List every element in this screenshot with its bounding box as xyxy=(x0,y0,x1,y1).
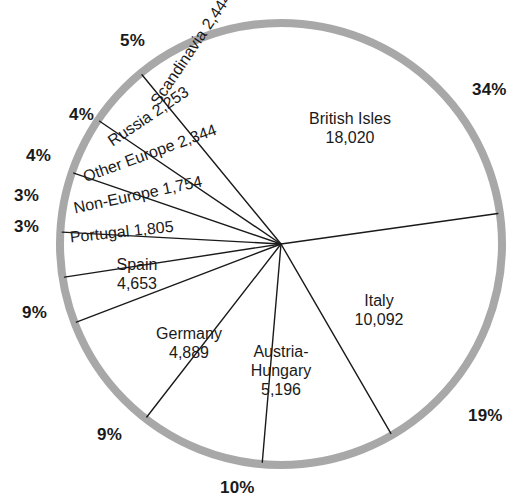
percent-label-british-isles: 34% xyxy=(472,80,507,100)
slice-label-line: 10,092 xyxy=(355,311,404,330)
slice-label-italy: Italy10,092 xyxy=(355,292,404,330)
slice-label-spain: Spain4,653 xyxy=(117,256,158,294)
slice-label-line: 4,653 xyxy=(117,275,158,294)
percent-label-russia: 4% xyxy=(69,105,94,125)
slice-divider-1 xyxy=(281,244,391,433)
slice-label-line: 5,196 xyxy=(251,380,311,399)
percent-label-spain: 9% xyxy=(22,303,47,323)
pie-svg xyxy=(0,0,522,500)
slice-label-british-isles: British Isles18,020 xyxy=(309,110,391,148)
percent-label-scandinavia: 5% xyxy=(120,31,145,51)
slice-divider-5 xyxy=(65,244,281,277)
slice-label-germany: Germany4,889 xyxy=(156,325,222,363)
slice-label-line: British Isles xyxy=(309,110,391,129)
slice-label-line: Hungary xyxy=(251,362,311,381)
slice-label-line: Austria- xyxy=(251,343,311,362)
percent-label-non-europe: 3% xyxy=(14,186,39,206)
slice-label-line: 4,889 xyxy=(156,344,222,363)
slice-label-austria-hungary: Austria-Hungary5,196 xyxy=(251,343,311,400)
percent-label-other-europe: 4% xyxy=(26,146,51,166)
percent-label-italy: 19% xyxy=(468,406,503,426)
slice-label-line: 18,020 xyxy=(309,129,391,148)
pie-chart: British Isles18,02034%Italy10,09219%Aust… xyxy=(0,0,522,500)
percent-label-portugal: 3% xyxy=(14,217,39,237)
percent-label-germany: 9% xyxy=(97,425,122,445)
slice-label-line: Germany xyxy=(156,325,222,344)
slice-label-line: Italy xyxy=(355,292,404,311)
slice-divider-0 xyxy=(281,214,498,244)
percent-label-austria-hungary: 10% xyxy=(220,478,255,498)
slice-label-line: Spain xyxy=(117,256,158,275)
